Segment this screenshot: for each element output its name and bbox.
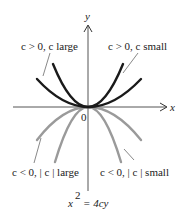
label-pos-small: c > 0, c small	[108, 40, 167, 52]
y-axis-label: y	[84, 10, 90, 22]
label-neg-small: c < 0, | c | small	[100, 166, 169, 178]
equation: x 2 = 4cy	[67, 189, 109, 209]
leader-top-right	[123, 53, 138, 73]
x-axis-label: x	[169, 101, 175, 113]
leader-top-left	[43, 53, 50, 76]
negative-curves	[37, 107, 141, 162]
origin-label: 0	[81, 111, 87, 123]
parabola-family-diagram: y x 0 c > 0, c large c > 0, c small c < …	[0, 0, 185, 213]
curve-pos-small	[37, 79, 141, 107]
positive-curves	[37, 64, 141, 107]
leader-bottom-right	[124, 149, 134, 160]
label-pos-large: c > 0, c large	[21, 40, 78, 52]
leader-bottom-left	[34, 138, 41, 163]
curve-neg-small	[37, 107, 141, 140]
label-neg-large: c < 0, | c | large	[12, 166, 79, 178]
equation-base: x	[67, 197, 73, 209]
equation-exponent: 2	[75, 189, 81, 201]
equation-rhs: = 4cy	[83, 197, 109, 209]
